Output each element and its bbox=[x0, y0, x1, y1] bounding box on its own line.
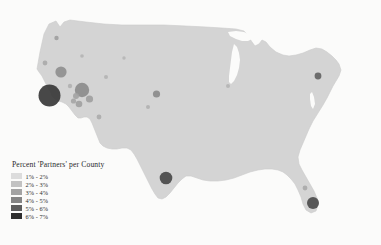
legend-swatch bbox=[11, 205, 22, 211]
county-marker bbox=[80, 54, 84, 58]
legend-label: 6% - 7% bbox=[25, 213, 48, 220]
county-marker bbox=[39, 85, 61, 107]
county-marker bbox=[160, 172, 173, 185]
county-marker bbox=[54, 36, 58, 40]
county-marker bbox=[55, 66, 66, 77]
county-marker bbox=[73, 93, 79, 99]
county-marker bbox=[71, 98, 76, 103]
legend-swatch bbox=[11, 173, 22, 179]
legend-item: 2% - 3% bbox=[11, 180, 131, 187]
legend-title: Percent 'Partners' per County bbox=[12, 160, 131, 169]
county-marker bbox=[122, 56, 125, 59]
county-marker bbox=[86, 95, 93, 102]
legend-label: 1% - 2% bbox=[25, 173, 48, 180]
legend-item: 1% - 2% bbox=[11, 173, 131, 180]
county-marker bbox=[153, 90, 160, 97]
county-marker bbox=[68, 84, 72, 88]
choropleth-map-figure: Percent 'Partners' per County 1% - 2% 2%… bbox=[0, 0, 381, 245]
legend-label: 3% - 4% bbox=[25, 189, 48, 196]
legend-swatch bbox=[11, 197, 22, 203]
legend-label: 5% - 6% bbox=[25, 205, 48, 212]
county-marker bbox=[303, 186, 308, 191]
county-marker bbox=[97, 115, 102, 120]
county-marker bbox=[307, 197, 319, 209]
county-marker bbox=[146, 105, 150, 109]
screenshot-root: Percent 'Partners' per County 1% - 2% 2%… bbox=[0, 0, 381, 245]
county-marker bbox=[104, 75, 108, 79]
county-marker bbox=[315, 73, 322, 80]
legend-item: 4% - 5% bbox=[11, 196, 131, 203]
legend-item: 5% - 6% bbox=[11, 204, 131, 211]
county-marker bbox=[43, 61, 48, 66]
county-marker bbox=[76, 101, 83, 108]
legend-item: 3% - 4% bbox=[11, 188, 131, 195]
legend-swatch bbox=[11, 181, 22, 187]
legend-swatch bbox=[11, 189, 22, 195]
legend-swatch bbox=[11, 213, 22, 219]
legend-item: 6% - 7% bbox=[11, 212, 131, 219]
legend-label: 4% - 5% bbox=[25, 197, 48, 204]
legend-label: 2% - 3% bbox=[25, 181, 48, 188]
map-legend: Percent 'Partners' per County 1% - 2% 2%… bbox=[11, 160, 131, 220]
county-marker bbox=[226, 84, 230, 88]
